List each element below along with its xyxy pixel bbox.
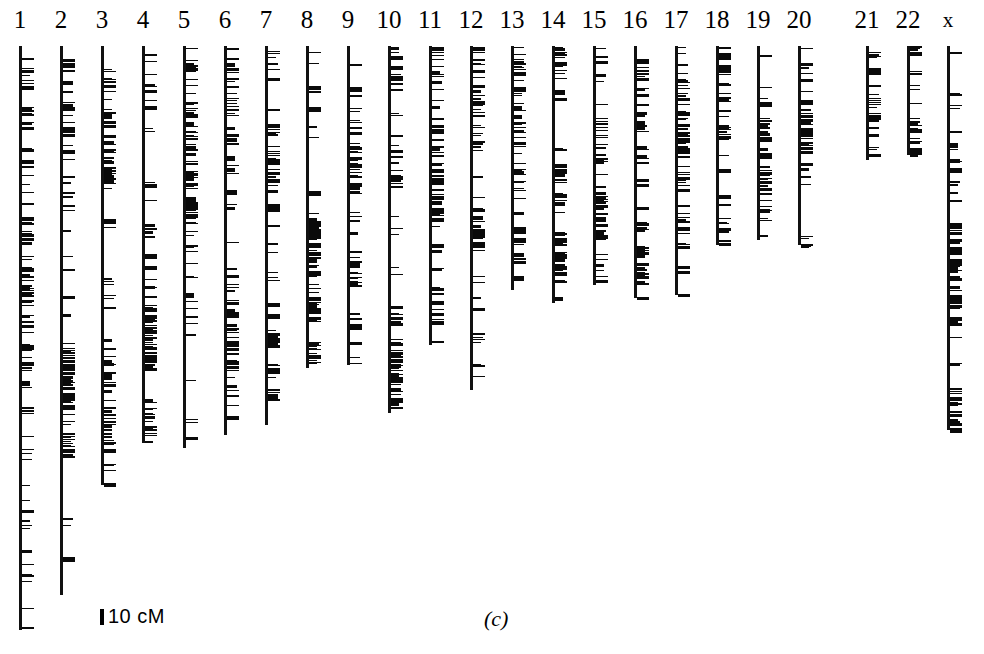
marker-tick <box>350 127 362 129</box>
marker-tick <box>432 321 444 325</box>
marker-tick <box>473 225 481 228</box>
marker-tick <box>22 410 34 412</box>
marker-tick <box>309 292 319 293</box>
marker-tick <box>950 403 958 404</box>
marker-tick <box>950 400 962 401</box>
marker-tick <box>391 391 403 392</box>
marker-tick <box>391 370 403 371</box>
marker-tick <box>227 48 239 50</box>
marker-tick <box>186 108 198 109</box>
marker-tick <box>227 346 239 347</box>
chromosome-label-15: 15 <box>577 6 611 34</box>
marker-tick <box>391 267 399 268</box>
marker-tick <box>473 77 485 78</box>
marker-tick <box>869 94 879 95</box>
marker-tick <box>432 250 442 253</box>
marker-tick <box>391 183 403 184</box>
marker-tick <box>63 315 71 317</box>
marker-tick <box>63 196 73 198</box>
marker-tick <box>309 276 317 277</box>
marker-tick <box>104 400 116 401</box>
marker-tick <box>473 197 485 198</box>
marker-tick <box>760 218 768 219</box>
marker-tick <box>637 162 649 164</box>
marker-tick <box>22 231 32 232</box>
marker-tick <box>186 308 198 309</box>
marker-tick <box>309 321 321 322</box>
marker-tick <box>760 190 768 191</box>
marker-tick <box>950 416 960 417</box>
marker-tick <box>637 62 649 64</box>
marker-tick <box>910 48 920 49</box>
marker-tick <box>309 284 319 285</box>
marker-tick <box>22 276 34 278</box>
marker-tick <box>760 158 772 159</box>
marker-tick <box>63 115 73 116</box>
marker-tick <box>473 237 483 239</box>
marker-tick <box>350 132 362 133</box>
marker-tick <box>596 130 608 131</box>
marker-tick <box>268 129 280 130</box>
marker-tick <box>950 280 962 281</box>
marker-tick <box>473 176 483 178</box>
marker-tick <box>22 525 32 526</box>
marker-tick <box>350 232 358 235</box>
marker-tick <box>473 216 483 220</box>
marker-tick <box>227 416 239 420</box>
marker-tick <box>514 174 526 175</box>
marker-tick <box>719 244 731 246</box>
marker-tick <box>104 69 112 70</box>
marker-tick <box>268 225 280 227</box>
marker-tick <box>719 131 727 133</box>
marker-tick <box>473 142 483 145</box>
marker-tick <box>596 118 608 119</box>
marker-tick <box>63 182 71 184</box>
marker-tick <box>309 298 321 301</box>
marker-tick <box>555 65 563 67</box>
chromosome-label-19: 19 <box>741 6 775 34</box>
marker-tick <box>473 150 483 151</box>
marker-tick <box>186 60 198 61</box>
marker-tick <box>637 250 649 251</box>
marker-tick <box>104 298 114 299</box>
marker-tick <box>514 188 524 189</box>
marker-tick <box>145 305 157 306</box>
marker-tick <box>801 138 813 139</box>
marker-tick <box>760 185 768 187</box>
marker-tick <box>22 627 34 629</box>
marker-tick <box>555 150 567 151</box>
marker-tick <box>268 377 276 378</box>
marker-tick <box>869 57 877 58</box>
marker-tick <box>186 144 196 145</box>
marker-tick <box>22 111 34 112</box>
marker-tick <box>227 284 239 285</box>
marker-tick <box>596 127 608 128</box>
marker-tick <box>678 179 686 181</box>
marker-tick <box>22 293 32 294</box>
marker-tick <box>63 355 75 356</box>
marker-tick <box>514 47 524 48</box>
marker-tick <box>719 58 729 59</box>
marker-tick <box>227 377 235 378</box>
marker-tick <box>350 363 362 364</box>
marker-tick <box>22 485 30 486</box>
marker-tick <box>950 108 960 109</box>
marker-tick <box>596 81 604 82</box>
marker-tick <box>637 184 649 187</box>
marker-tick <box>950 391 962 392</box>
marker-tick <box>268 272 278 273</box>
marker-tick <box>910 118 920 119</box>
marker-tick <box>104 483 116 487</box>
marker-tick <box>596 147 606 149</box>
marker-tick <box>309 363 317 364</box>
marker-tick <box>432 100 444 101</box>
marker-tick <box>268 153 280 154</box>
marker-tick <box>678 205 690 207</box>
marker-tick <box>309 191 321 192</box>
marker-tick <box>268 176 276 178</box>
marker-tick <box>432 201 442 205</box>
marker-tick <box>432 288 442 289</box>
marker-tick <box>719 110 731 112</box>
marker-tick <box>473 127 485 128</box>
marker-tick <box>227 367 239 368</box>
